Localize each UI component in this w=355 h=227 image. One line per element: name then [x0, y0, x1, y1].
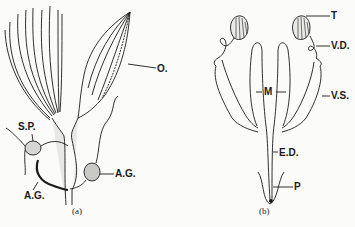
diagram-canvas — [0, 0, 355, 227]
label-accessory-gland-left: A.G. — [24, 191, 45, 201]
label-mushroom-gland: M — [264, 87, 272, 97]
vas-deferens-right — [309, 36, 322, 66]
label-vesicula-seminalis: V.S. — [331, 91, 349, 101]
panel-b-drawing — [214, 16, 330, 204]
ejaculatory-duct — [266, 126, 274, 200]
label-vas-deferens: V.D. — [331, 41, 350, 51]
right-ovary — [78, 12, 130, 118]
testis-right — [293, 16, 310, 40]
vesicula-seminalis-right — [282, 62, 321, 132]
label-ovary: O. — [157, 64, 168, 74]
vas-deferens-left — [214, 38, 234, 66]
label-ejaculatory-duct: E.D. — [279, 148, 298, 158]
label-spermatheca: S.P. — [18, 122, 36, 132]
caption-panel-b: (b) — [259, 207, 270, 216]
label-accessory-gland-right: A.G. — [115, 169, 136, 179]
vesicula-seminalis-left — [215, 60, 258, 132]
label-penis: P — [294, 182, 301, 192]
caption-panel-a: (a) — [72, 207, 82, 216]
mushroom-gland-left — [250, 43, 266, 126]
oviduct — [52, 118, 78, 205]
accessory-gland-right — [70, 96, 118, 189]
label-testis: T — [331, 11, 337, 21]
testis-left — [231, 16, 248, 40]
left-ovary-ovarioles — [5, 6, 62, 120]
mushroom-gland-right — [274, 43, 290, 126]
